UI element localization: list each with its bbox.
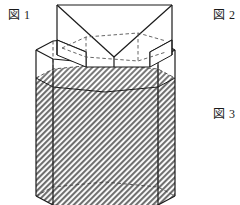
figure-label-1: 図 1 (8, 9, 31, 22)
geometry-diagram (0, 0, 240, 205)
inserted-open-box (57, 5, 172, 67)
figure-label-2: 図 2 (213, 9, 236, 22)
water-body-front-faces (36, 78, 175, 205)
figure-label-3: 図 3 (213, 108, 236, 121)
figure-canvas: 図 1 図 2 図 3 (0, 0, 240, 205)
